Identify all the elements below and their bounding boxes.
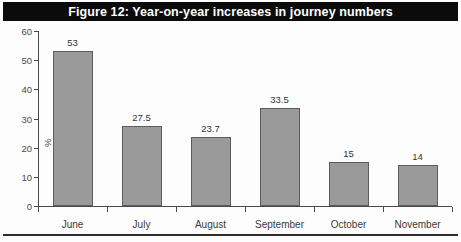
x-axis-tick-mark (245, 207, 246, 212)
y-axis-tick-label: 20 (21, 142, 32, 153)
y-axis-tick-label: 0 (27, 201, 32, 212)
bottom-divider (3, 234, 458, 236)
figure-title: Figure 12: Year-on-year increases in jou… (68, 5, 393, 19)
bar-value-label: 14 (412, 151, 423, 162)
x-axis-category-labels: JuneJulyAugustSeptemberOctoberNovember (38, 219, 452, 233)
bar (191, 137, 231, 206)
x-axis-tick-mark (383, 207, 384, 212)
bar (398, 165, 438, 206)
chart-plot-area: % 0102030405060 5327.523.733.51514 (38, 31, 452, 207)
x-axis-category-label: November (394, 219, 440, 230)
bar-value-label: 23.7 (201, 123, 220, 134)
x-axis-tick-mark (107, 207, 108, 212)
y-axis-label: % (42, 139, 53, 147)
x-axis-category-label: June (62, 219, 84, 230)
y-axis-line (38, 31, 39, 207)
bar-value-label: 33.5 (270, 94, 289, 105)
x-axis-tick-mark (452, 207, 453, 212)
y-axis-tick-mark (34, 177, 38, 178)
y-axis-tick-label: 60 (21, 26, 32, 37)
y-axis-tick-mark (34, 89, 38, 90)
x-axis-tick-mark (38, 207, 39, 212)
bar-value-label: 27.5 (132, 112, 151, 123)
y-axis-tick-mark (34, 60, 38, 61)
figure-title-bar: Figure 12: Year-on-year increases in jou… (3, 2, 458, 21)
bar-value-label: 53 (67, 37, 78, 48)
figure-container: Figure 12: Year-on-year increases in jou… (0, 0, 461, 242)
x-axis-category-label: August (195, 219, 226, 230)
bar (53, 51, 93, 206)
y-axis-tick-label: 30 (21, 113, 32, 124)
x-axis-category-label: October (331, 219, 367, 230)
x-axis-category-label: September (255, 219, 304, 230)
y-axis-tick-label: 10 (21, 171, 32, 182)
bar (260, 108, 300, 206)
y-axis-tick-label: 40 (21, 84, 32, 95)
bar (122, 126, 162, 206)
y-axis-tick-label: 50 (21, 55, 32, 66)
x-axis-category-label: July (133, 219, 151, 230)
x-axis-tick-mark (314, 207, 315, 212)
y-axis-tick-mark (34, 31, 38, 32)
bar-value-label: 15 (343, 148, 354, 159)
bar (329, 162, 369, 206)
y-axis-tick-mark (34, 119, 38, 120)
x-axis-tick-mark (176, 207, 177, 212)
y-axis-tick-mark (34, 148, 38, 149)
